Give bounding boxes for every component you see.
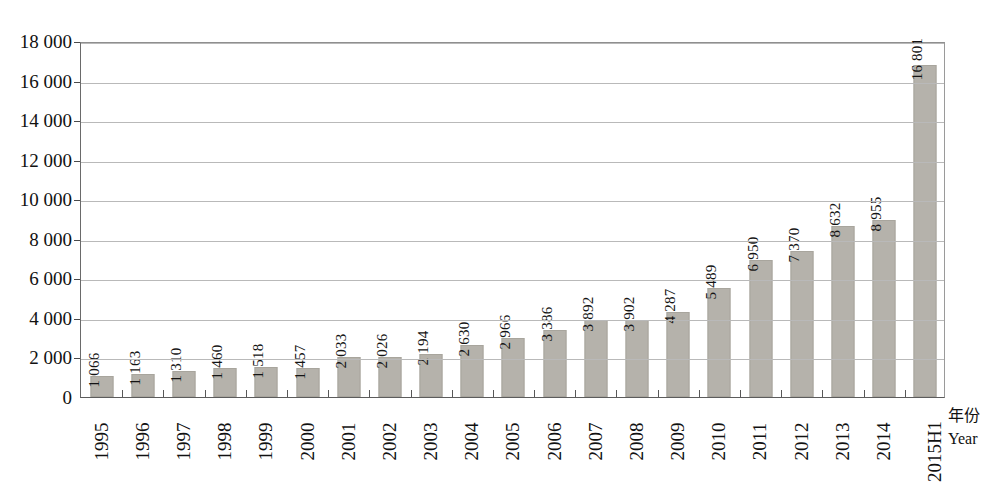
- x-axis-tick-label: 2004: [451, 400, 492, 452]
- bar: [667, 312, 690, 397]
- bar-slot: 1 066: [81, 43, 122, 397]
- x-axis-tick-label: 2014: [863, 400, 904, 452]
- x-axis-tick-label: 2009: [657, 400, 698, 452]
- x-axis-tick-label-text: 2007: [585, 423, 604, 461]
- bar-value-label: 3 386: [540, 307, 555, 342]
- x-axis-tick-label: 2013: [821, 400, 862, 452]
- bar: [790, 251, 813, 397]
- bar-value-label: 8 632: [828, 203, 843, 238]
- x-axis-tick-label: 2012: [780, 400, 821, 452]
- gridline: [81, 162, 944, 163]
- y-axis-tick-label: 16 000: [0, 72, 72, 91]
- x-axis-tick-label-text: 2000: [297, 423, 316, 461]
- y-axis-tick-label: 12 000: [0, 151, 72, 170]
- x-axis-title-en: Year: [948, 427, 996, 450]
- x-axis-tick-label: 1996: [121, 400, 162, 452]
- x-axis-tick-label: 2000: [286, 400, 327, 452]
- x-axis-tick-label-text: 2012: [791, 423, 810, 461]
- x-axis-title: 年份 Year: [948, 404, 996, 450]
- y-axis-tick-label: 18 000: [0, 32, 72, 51]
- y-axis-tick-label: 10 000: [0, 190, 72, 209]
- plot-area: 1 0661 1631 3101 4601 5181 4572 0332 026…: [80, 42, 945, 398]
- bar-slot: 2 194: [411, 43, 452, 397]
- bar-slot: 5 489: [699, 43, 740, 397]
- x-axis-tick-label-text: 1997: [173, 423, 192, 461]
- bar-slot: 3 892: [575, 43, 616, 397]
- bar-slot: 1 310: [163, 43, 204, 397]
- bar-slot: 8 632: [822, 43, 863, 397]
- bar-slot: 6 950: [740, 43, 781, 397]
- y-axis-tick-label: 4 000: [0, 309, 72, 328]
- x-axis-tick-label-text: 2015H1: [925, 421, 944, 482]
- bar-slot: 2 033: [328, 43, 369, 397]
- gridline: [81, 83, 944, 84]
- bar-value-label: 1 310: [169, 348, 184, 383]
- x-axis-tick-label-text: 1995: [91, 423, 110, 461]
- bar-value-label: 1 460: [210, 345, 225, 380]
- x-axis-tick-label-text: 2008: [627, 423, 646, 461]
- x-axis-tick-label: 2007: [574, 400, 615, 452]
- bar-value-label: 2 033: [334, 333, 349, 368]
- bar-value-label: 1 518: [251, 344, 266, 379]
- x-axis-tick-label-text: 2001: [338, 423, 357, 461]
- gridline: [81, 359, 944, 360]
- bar-value-label: 2 026: [375, 334, 390, 369]
- x-axis-tick-label-text: 1996: [132, 423, 151, 461]
- x-axis-tick-label: 2002: [368, 400, 409, 452]
- x-axis-tick-label: 1999: [245, 400, 286, 452]
- x-axis-tick-label: 2006: [533, 400, 574, 452]
- bar-slot: 2 630: [452, 43, 493, 397]
- x-axis-tick-label: 2010: [698, 400, 739, 452]
- bar: [914, 65, 937, 397]
- bar-value-label: 1 163: [128, 351, 143, 386]
- bar-slot: 16 801: [905, 43, 946, 397]
- bar-value-label: 1 066: [87, 353, 102, 388]
- x-axis-tick-label: 2008: [615, 400, 656, 452]
- bar-slot: 2 966: [493, 43, 534, 397]
- bar-value-label: 2 630: [457, 322, 472, 357]
- y-axis-tick-label: 2 000: [0, 348, 72, 367]
- bar-slot: 3 386: [534, 43, 575, 397]
- x-axis-tick-label-text: 2011: [750, 423, 769, 460]
- x-axis-tick-label: 2003: [410, 400, 451, 452]
- x-axis-tick-label: 2005: [492, 400, 533, 452]
- gridline: [81, 201, 944, 202]
- x-axis-tick-label: 1998: [204, 400, 245, 452]
- x-axis-tick-label-text: 1999: [256, 423, 275, 461]
- x-axis-tick-label-text: 2013: [833, 423, 852, 461]
- y-axis-tick-label: 8 000: [0, 230, 72, 249]
- bar-value-label: 1 457: [293, 345, 308, 380]
- x-axis-tick-label-text: 2004: [462, 423, 481, 461]
- bar-slot: 1 457: [287, 43, 328, 397]
- x-axis-tick-label: 2011: [739, 400, 780, 452]
- x-axis-tick-label: 2001: [327, 400, 368, 452]
- bar-value-label: 3 902: [622, 296, 637, 331]
- x-axis-tick-label-text: 2010: [709, 423, 728, 461]
- bar: [832, 226, 855, 397]
- bar-value-label: 3 892: [581, 297, 596, 332]
- x-axis-tick-label-text: 1998: [215, 423, 234, 461]
- bar: [626, 320, 649, 397]
- bar-value-label: 7 370: [787, 228, 802, 263]
- bar-slot: 1 518: [246, 43, 287, 397]
- bar-slot: 4 287: [658, 43, 699, 397]
- x-axis-tick-label: 2015H1: [904, 400, 945, 462]
- x-axis-tick-label-text: 2002: [379, 423, 398, 461]
- y-axis-tick-label: 0: [0, 388, 72, 407]
- gridline: [81, 280, 944, 281]
- x-axis-tick-label: 1995: [80, 400, 121, 452]
- bar-slot: 8 955: [864, 43, 905, 397]
- bar-slot: 1 460: [205, 43, 246, 397]
- y-axis: 18 00016 00014 00012 00010 0008 0006 000…: [0, 0, 76, 475]
- x-axis-labels: 1995199619971998199920002001200220032004…: [80, 400, 945, 475]
- gridline: [81, 122, 944, 123]
- x-axis-tick-label-text: 2006: [544, 423, 563, 461]
- bar: [708, 288, 731, 397]
- x-axis-tick-label-text: 2003: [421, 423, 440, 461]
- x-axis-tick-label: 1997: [162, 400, 203, 452]
- gridline: [81, 320, 944, 321]
- bar: [873, 220, 896, 397]
- bars-container: 1 0661 1631 3101 4601 5181 4572 0332 026…: [81, 43, 944, 397]
- x-axis-title-cn: 年份: [948, 404, 996, 427]
